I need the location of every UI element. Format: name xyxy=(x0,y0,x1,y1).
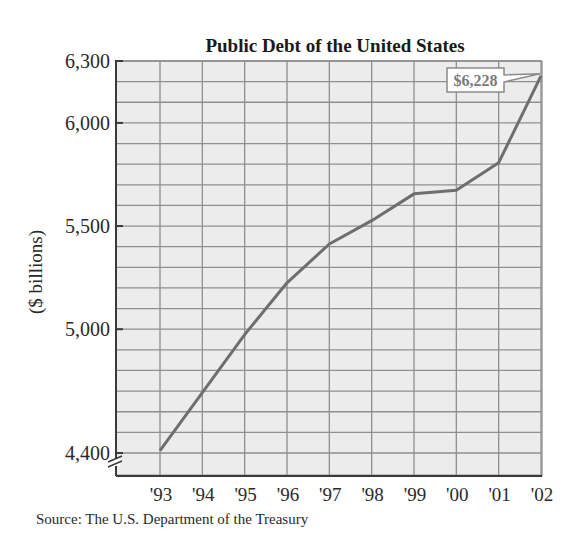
y-axis-label: ($ billions) xyxy=(25,230,47,314)
chart-title: Public Debt of the United States xyxy=(205,35,464,56)
y-tick-label: 4,400 xyxy=(65,442,110,464)
x-tick-label: '99 xyxy=(404,484,426,505)
x-tick-label: '00 xyxy=(446,484,468,505)
y-tick-label: 5,000 xyxy=(65,318,110,340)
x-tick-label: '01 xyxy=(488,484,510,505)
y-tick-label: 6,300 xyxy=(65,50,110,72)
source-note: Source: The U.S. Department of the Treas… xyxy=(36,511,309,527)
callout-value: $6,228 xyxy=(454,72,498,89)
plot-area: $6,228 xyxy=(108,61,542,476)
y-tick-label: 5,500 xyxy=(65,215,110,237)
x-tick-label: '93 xyxy=(150,484,172,505)
y-axis-tick-labels: 4,4005,0005,5006,0006,300 xyxy=(65,50,110,464)
x-tick-label: '02 xyxy=(531,484,553,505)
chart: Public Debt of the United States $6,228 … xyxy=(0,0,575,535)
x-tick-label: '98 xyxy=(361,484,383,505)
x-tick-label: '95 xyxy=(234,484,256,505)
x-tick-label: '94 xyxy=(192,484,215,505)
x-tick-label: '96 xyxy=(277,484,299,505)
y-tick-label: 6,000 xyxy=(65,112,110,134)
x-tick-label: '97 xyxy=(319,484,341,505)
x-axis-tick-labels: '93'94'95'96'97'98'99'00'01'02 xyxy=(150,484,553,505)
